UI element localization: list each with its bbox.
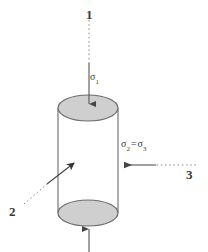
sigma-2-subscript: 2 — [126, 145, 130, 153]
sigma-1-label: σ1 — [90, 72, 99, 85]
stress-diagram-figure: 1 2 3 σ1 σ2=σ3 — [0, 0, 208, 252]
cylinder-top-face — [58, 95, 118, 121]
sigma-3-subscript: 3 — [143, 145, 147, 153]
figure-canvas — [0, 0, 208, 252]
callout-label-2: 2 — [9, 205, 16, 218]
sigma-1-subscript: 1 — [95, 78, 99, 86]
sigma-2-equals-sigma-3-label: σ2=σ3 — [121, 139, 146, 152]
cylinder-bottom-face — [58, 200, 118, 226]
equals-sign: = — [130, 138, 138, 149]
callout-label-1: 1 — [86, 8, 93, 21]
callout-label-3: 3 — [186, 168, 193, 181]
specimen-leader-dashed — [24, 184, 47, 204]
cylinder-shape — [58, 95, 118, 226]
